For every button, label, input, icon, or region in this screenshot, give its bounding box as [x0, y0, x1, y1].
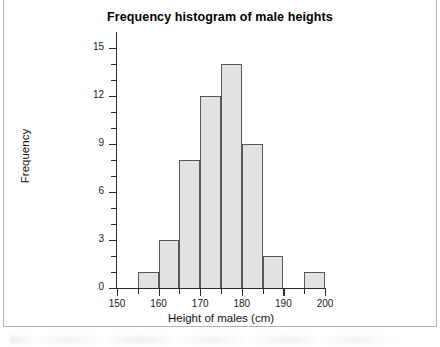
y-tick-labels: 03691215	[78, 0, 104, 347]
plot-area: 03691215 150160170180190200 Height of ma…	[0, 0, 440, 347]
x-tick-label: 190	[263, 298, 303, 309]
x-tick-major	[283, 289, 284, 296]
y-tick-label: 15	[78, 41, 104, 52]
histogram-bar	[159, 240, 180, 288]
x-tick-minor	[138, 289, 139, 294]
y-tick-label: 0	[78, 281, 104, 292]
y-tick-major	[109, 192, 116, 193]
y-tick-major	[109, 96, 116, 97]
y-tick-label: 3	[78, 233, 104, 244]
histogram-bar	[304, 272, 325, 288]
y-tick-minor	[111, 160, 116, 161]
histogram-bar	[221, 64, 242, 288]
x-tick-label: 160	[139, 298, 179, 309]
x-tick-major	[242, 289, 243, 296]
y-tick-minor	[111, 80, 116, 81]
y-axis-label: Frequency	[19, 86, 31, 226]
x-tick-major	[117, 289, 118, 296]
x-tick-major	[325, 289, 326, 296]
x-tick-label: 180	[222, 298, 262, 309]
y-tick-label: 6	[78, 185, 104, 196]
x-tick-label: 150	[97, 298, 137, 309]
y-tick-label: 12	[78, 89, 104, 100]
y-tick-minor	[111, 208, 116, 209]
x-tick-minor	[304, 289, 305, 294]
y-tick-minor	[111, 64, 116, 65]
y-tick-minor	[111, 112, 116, 113]
y-tick-major	[109, 144, 116, 145]
page-bottom-artifact	[10, 336, 430, 344]
histogram-screenshot: Frequency histogram of male heights 0369…	[0, 0, 440, 347]
x-tick-label: 170	[180, 298, 220, 309]
y-tick-minor	[111, 176, 116, 177]
histogram-bar	[200, 96, 221, 288]
histogram-bar	[263, 256, 284, 288]
histogram-bar	[138, 272, 159, 288]
y-tick-major	[109, 48, 116, 49]
x-tick-minor	[221, 289, 222, 294]
y-tick-major	[109, 288, 116, 289]
x-tick-minor	[179, 289, 180, 294]
x-tick-minor	[263, 289, 264, 294]
y-tick-minor	[111, 272, 116, 273]
histogram-bar	[179, 160, 200, 288]
y-tick-minor	[111, 256, 116, 257]
y-tick-major	[109, 240, 116, 241]
x-tick-major	[200, 289, 201, 296]
histogram-bar	[242, 144, 263, 288]
x-tick-major	[159, 289, 160, 296]
y-tick-label: 9	[78, 137, 104, 148]
y-tick-minor	[111, 128, 116, 129]
x-tick-label: 200	[305, 298, 345, 309]
y-axis-line	[116, 32, 117, 289]
x-axis-label: Height of males (cm)	[116, 312, 326, 324]
y-tick-minor	[111, 224, 116, 225]
